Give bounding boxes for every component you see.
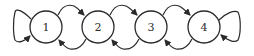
edge-3-to-4-arrow-icon — [163, 5, 190, 15]
node-2-label: 2 — [95, 21, 102, 34]
node-2: 2 — [82, 11, 114, 43]
state-diagram: 1 2 3 4 — [0, 0, 254, 56]
node-1: 1 — [30, 11, 62, 43]
edge-2-to-1-arrow-icon — [59, 39, 86, 49]
edge-3-to-2-arrow-icon — [112, 39, 139, 49]
node-1-label: 1 — [43, 21, 50, 34]
edge-4-to-3-arrow-icon — [165, 39, 192, 49]
edge-2-to-3-arrow-icon — [110, 5, 137, 15]
node-3: 3 — [135, 11, 167, 43]
edge-1-to-2-arrow-icon — [58, 5, 84, 15]
node-4: 4 — [188, 11, 220, 43]
edge-4-to-4-self-loop-icon — [219, 11, 240, 41]
node-3-label: 3 — [148, 21, 155, 34]
edge-1-to-1-self-loop-icon — [14, 10, 32, 42]
node-4-label: 4 — [201, 21, 208, 34]
